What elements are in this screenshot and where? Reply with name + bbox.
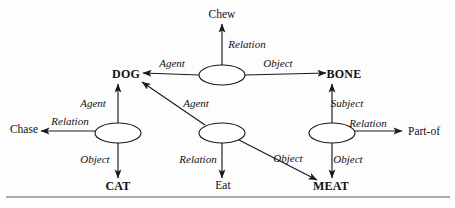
- chase-relation-node: [95, 123, 141, 143]
- edge-label-partof-relation: Relation: [349, 118, 386, 129]
- edge-label-chew-relation: Relation: [228, 39, 265, 50]
- edge-chew-to-dog: [143, 73, 199, 75]
- concept-part-of: Part-of: [408, 126, 440, 138]
- concept-chase: Chase: [10, 124, 38, 136]
- edge-label-eat-relation: Relation: [179, 154, 216, 165]
- part-of-relation-node: [309, 123, 355, 143]
- edge-chew-to-bone: [245, 73, 326, 75]
- diagram-graphics: [0, 0, 455, 208]
- chew-relation-node: [199, 65, 245, 85]
- edge-label-chase-agent: Agent: [80, 98, 106, 109]
- concept-chew: Chew: [209, 9, 236, 21]
- edge-label-chase-relation: Relation: [51, 116, 88, 127]
- eat-relation-node: [199, 123, 245, 143]
- entity-cat: CAT: [105, 180, 130, 192]
- edge-label-partof-subject: Subject: [331, 98, 363, 109]
- edge-label-eat-object: Object: [273, 153, 302, 164]
- concept-eat: Eat: [215, 180, 230, 192]
- edge-label-partof-object: Object: [333, 154, 362, 165]
- edge-label-chew-agent: Agent: [159, 58, 185, 69]
- edge-label-eat-agent: Agent: [183, 98, 209, 109]
- semantic-network-diagram: DOG BONE CAT MEAT Chew Chase Eat Part-of…: [0, 0, 455, 208]
- entity-bone: BONE: [327, 68, 362, 80]
- edge-label-chew-object: Object: [263, 58, 292, 69]
- entity-dog: DOG: [112, 68, 140, 80]
- entity-meat: MEAT: [313, 180, 349, 192]
- edge-label-chase-object: Object: [80, 154, 109, 165]
